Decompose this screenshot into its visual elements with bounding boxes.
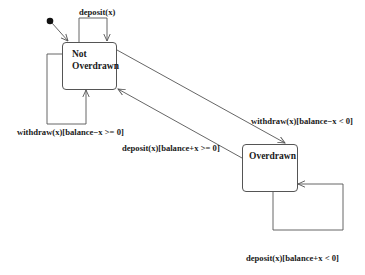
transition-label-withdraw-negative: withdraw(x)[balance−x < 0]	[251, 117, 353, 126]
deposit-self-loop	[79, 18, 107, 42]
withdraw-to-overdrawn-arrow	[117, 50, 285, 143]
state-overdrawn-label: Overdrawn	[249, 150, 296, 162]
transition-label-deposit-negative: deposit(x)[balance+x < 0]	[246, 254, 339, 263]
initial-transition-arrow	[52, 23, 68, 41]
transition-label-withdraw-nonnegative: withdraw(x)[balance−x >= 0]	[17, 128, 124, 137]
transition-label-deposit: deposit(x)	[79, 8, 115, 17]
state-overdrawn[interactable]: Overdrawn	[242, 144, 298, 192]
transition-label-deposit-nonnegative: deposit(x)[balance+x >= 0]	[122, 144, 220, 153]
state-not-overdrawn-label-line2: Overdrawn	[72, 60, 119, 72]
state-diagram-edges	[0, 0, 365, 275]
state-not-overdrawn[interactable]: Not Overdrawn	[62, 42, 117, 90]
state-not-overdrawn-label-line1: Not	[72, 48, 87, 60]
